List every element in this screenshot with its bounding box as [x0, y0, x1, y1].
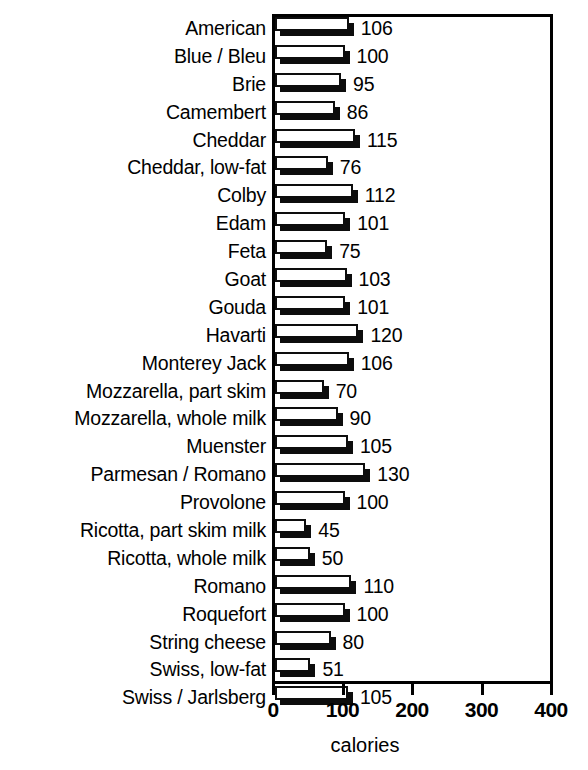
bar-row: Swiss / Jarlsberg105 [0, 683, 588, 711]
bar [275, 183, 359, 207]
bar-value-label: 106 [361, 18, 393, 38]
x-tick-label: 300 [465, 698, 499, 722]
bar-value-label: 101 [357, 297, 389, 317]
bar-row: Parmesan / Romano130 [0, 460, 588, 488]
bar [275, 323, 364, 347]
bar-face [275, 631, 331, 645]
bar-row: Colby112 [0, 181, 588, 209]
bar-rows-container: American106Blue / Bleu100Brie95Camembert… [0, 14, 588, 711]
x-tick-label: 200 [395, 698, 429, 722]
bar-face [275, 463, 365, 477]
bar [275, 546, 316, 570]
bar-value-label: 112 [365, 185, 396, 205]
bar-value-label: 130 [377, 464, 409, 484]
category-label: Blue / Bleu [174, 46, 266, 66]
bar-value-label: 110 [363, 576, 394, 596]
bar [275, 574, 357, 598]
bar-row: American106 [0, 14, 588, 42]
category-label: Colby [217, 185, 266, 205]
bar-row: Goat103 [0, 265, 588, 293]
bar-face [275, 435, 348, 449]
category-label: Swiss / Jarlsberg [122, 687, 266, 707]
bar-value-label: 120 [370, 325, 402, 345]
bar-value-label: 105 [360, 687, 392, 707]
bar-face [275, 45, 345, 59]
bar-row: Swiss, low-fat51 [0, 655, 588, 683]
bar-row: Cheddar, low-fat76 [0, 153, 588, 181]
bar-row: Brie95 [0, 70, 588, 98]
bar [275, 434, 354, 458]
category-label: American [185, 18, 266, 38]
bar-face [275, 296, 345, 310]
x-tick-label: 100 [326, 698, 360, 722]
bar-face [275, 156, 328, 170]
category-label: Goat [225, 269, 266, 289]
bar-face [275, 658, 310, 672]
bar-face [275, 407, 338, 421]
bar [275, 100, 341, 124]
x-tick-mark [342, 684, 345, 695]
bar [275, 16, 355, 40]
bar-value-label: 115 [367, 130, 398, 150]
bar-row: String cheese80 [0, 628, 588, 656]
bar [275, 155, 334, 179]
category-label: Mozzarella, part skim [86, 381, 266, 401]
bar [275, 128, 361, 152]
x-tick-mark [272, 684, 275, 695]
bar-value-label: 103 [359, 269, 391, 289]
x-tick-mark [550, 684, 553, 695]
bar-row: Feta75 [0, 237, 588, 265]
bar-value-label: 86 [347, 102, 368, 122]
bar-face [275, 547, 310, 561]
bar [275, 657, 316, 681]
bar-row: Cheddar115 [0, 126, 588, 154]
category-label: Ricotta, whole milk [107, 548, 266, 568]
category-label: Roquefort [182, 604, 266, 624]
bar-value-label: 105 [360, 436, 392, 456]
bar-value-label: 50 [322, 548, 343, 568]
bar-face [275, 101, 335, 115]
bar-row: Havarti120 [0, 321, 588, 349]
bar-value-label: 95 [353, 74, 374, 94]
bar-face [275, 519, 306, 533]
bar-face [275, 212, 345, 226]
bar [275, 602, 351, 626]
bar-value-label: 100 [357, 492, 389, 512]
bar-value-label: 100 [357, 604, 389, 624]
x-axis-title: calories [0, 733, 588, 757]
bar-face [275, 129, 355, 143]
category-label: Brie [232, 74, 266, 94]
bar-value-label: 45 [318, 520, 339, 540]
category-label: Cheddar, low-fat [127, 157, 266, 177]
bar [275, 630, 337, 654]
category-label: Swiss, low-fat [150, 659, 266, 679]
category-label: Parmesan / Romano [91, 464, 266, 484]
bar-row: Romano110 [0, 572, 588, 600]
category-label: Havarti [206, 325, 266, 345]
bar-face [275, 380, 324, 394]
bar-row: Edam101 [0, 209, 588, 237]
x-tick-label: 400 [534, 698, 568, 722]
bar [275, 44, 351, 68]
bar-row: Monterey Jack106 [0, 349, 588, 377]
bar [275, 518, 312, 542]
bar-value-label: 101 [357, 213, 389, 233]
category-label: Mozzarella, whole milk [74, 408, 266, 428]
category-label: Romano [193, 576, 266, 596]
category-label: Muenster [186, 436, 266, 456]
bar-row: Provolone100 [0, 488, 588, 516]
bar-value-label: 80 [343, 632, 364, 652]
bar-value-label: 51 [322, 659, 343, 679]
bar-row: Gouda101 [0, 293, 588, 321]
bar [275, 72, 347, 96]
bar [275, 462, 371, 486]
bar [275, 379, 330, 403]
bar-row: Roquefort100 [0, 600, 588, 628]
bar [275, 490, 351, 514]
bar [275, 351, 355, 375]
bar-face [275, 491, 345, 505]
category-label: Feta [228, 241, 266, 261]
bar-row: Blue / Bleu100 [0, 42, 588, 70]
bar-row: Mozzarella, whole milk90 [0, 404, 588, 432]
bar [275, 239, 333, 263]
